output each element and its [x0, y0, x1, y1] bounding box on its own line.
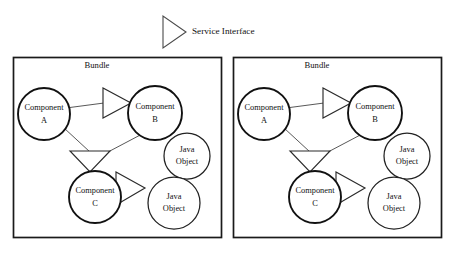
component-c-label-line2: C	[92, 199, 98, 208]
component-a-shape	[18, 88, 70, 140]
component-a-label-line2: A	[41, 116, 47, 125]
component-diagram: Service Interface Bundle Java Object Jav…	[0, 0, 453, 256]
component-c-label-line1: Component	[75, 186, 115, 195]
component-a-label-line1: Component	[24, 103, 64, 112]
bundle-right-panel: Bundle Java Object Java Object Component…	[234, 58, 442, 238]
diagram-canvas: Service Interface Bundle Java Object Jav…	[0, 0, 453, 256]
component-b-label-line2: B	[152, 115, 158, 124]
component-a-label-line2: A	[261, 116, 267, 125]
java-object-upper-label-line2: Object	[396, 157, 419, 166]
bundle-left-panel: Bundle Java Object Java Object Component…	[14, 58, 222, 238]
legend-label: Service Interface	[192, 26, 254, 36]
component-c-label-line1: Component	[295, 186, 335, 195]
bundle-right-title: Bundle	[305, 60, 330, 70]
bundle-left-title: Bundle	[85, 60, 110, 70]
java-object-upper-label-line1: Java	[400, 145, 415, 154]
component-b-label-line2: B	[372, 115, 378, 124]
legend: Service Interface	[163, 16, 254, 48]
java-object-upper-label-line1: Java	[180, 145, 195, 154]
component-c-shape	[69, 171, 121, 223]
component-a-label-line1: Component	[244, 103, 284, 112]
service-interface-triangle-icon	[163, 16, 186, 48]
java-object-lower-label-line2: Object	[163, 204, 186, 213]
component-a-shape	[238, 88, 290, 140]
java-object-lower-label-line2: Object	[383, 204, 406, 213]
component-b-shape	[128, 86, 182, 140]
component-b-shape	[348, 86, 402, 140]
component-b-label-line1: Component	[135, 102, 175, 111]
component-b-label-line1: Component	[355, 102, 395, 111]
component-c-shape	[289, 171, 341, 223]
java-object-lower-label-line1: Java	[387, 192, 402, 201]
java-object-upper-label-line2: Object	[176, 157, 199, 166]
component-c-label-line2: C	[312, 199, 318, 208]
java-object-lower-label-line1: Java	[167, 192, 182, 201]
